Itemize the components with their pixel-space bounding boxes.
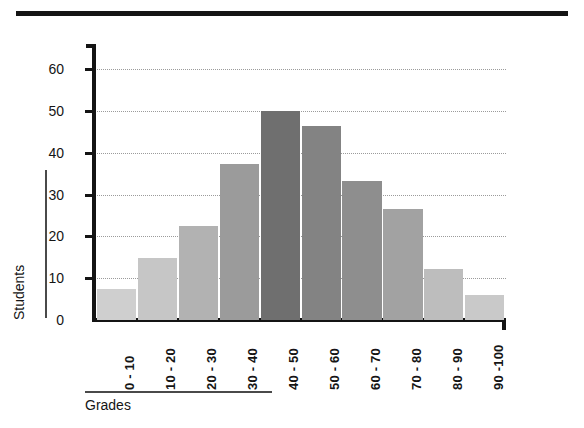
y-axis-tick — [85, 194, 93, 197]
x-axis-tick-labels-group: 0 - 1010 - 2020 - 3030 - 4040 - 5050 - 6… — [97, 324, 506, 386]
bar — [97, 289, 136, 320]
y-axis-tick — [85, 110, 93, 113]
y-axis-tick — [85, 235, 93, 238]
y-axis-title: Students — [11, 240, 27, 320]
bar — [383, 209, 422, 320]
bars-group — [97, 44, 506, 320]
bar — [465, 295, 504, 321]
y-axis-tick-label: 40 — [24, 146, 64, 160]
bar — [261, 111, 300, 320]
y-axis-tick-label: 30 — [24, 188, 64, 202]
x-axis-tick-label: 20 - 30 — [205, 320, 219, 390]
y-axis-spine — [92, 44, 96, 322]
y-axis-tick — [85, 68, 93, 71]
x-axis-tick-label: 30 - 40 — [246, 320, 260, 390]
bar — [302, 126, 341, 320]
x-axis-tick-label: 40 - 50 — [287, 320, 301, 390]
x-axis-tick-label: 60 - 70 — [369, 320, 383, 390]
x-axis-tick-label: 70 - 80 — [410, 320, 424, 390]
x-axis-title: Grades — [85, 397, 131, 413]
bar — [138, 258, 177, 320]
y-axis-title-rule — [45, 170, 47, 318]
x-axis-tick-label: 90 -100 — [492, 320, 506, 390]
x-axis-tick-label: 10 - 20 — [164, 320, 178, 390]
histogram-chart: 0102030405060 0 - 1010 - 2020 - 3030 - 4… — [0, 0, 584, 428]
y-axis-tick — [85, 277, 93, 280]
x-axis-title-rule — [85, 391, 272, 393]
x-axis-tick-label: 0 - 10 — [123, 320, 137, 390]
y-axis-tick-label: 60 — [24, 62, 64, 76]
y-axis-tick-label: 10 — [24, 271, 64, 285]
x-axis-tick-label: 80 - 90 — [451, 320, 465, 390]
y-axis-tick-label: 0 — [24, 313, 64, 327]
x-axis-tick-label: 50 - 60 — [328, 320, 342, 390]
bar — [179, 226, 218, 320]
bar — [342, 181, 381, 320]
y-axis-tick-label: 20 — [24, 229, 64, 243]
bar — [424, 269, 463, 320]
bar — [220, 164, 259, 320]
y-axis-tick — [85, 152, 93, 155]
y-axis-tick-label: 50 — [24, 104, 64, 118]
